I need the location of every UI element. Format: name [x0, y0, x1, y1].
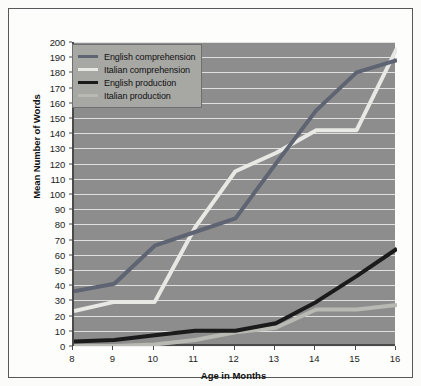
legend-swatch — [78, 68, 98, 71]
y-tick-label: 140 — [50, 128, 65, 139]
x-tick-label: 15 — [349, 353, 360, 364]
legend-item: English production — [78, 76, 195, 89]
legend-swatch — [78, 81, 98, 84]
y-tick-label: 150 — [50, 113, 65, 124]
legend-item: English comprehension — [78, 50, 195, 63]
y-tick-label: 30 — [55, 295, 65, 306]
x-axis-label: Age in Months — [72, 370, 395, 381]
x-tick-label: 12 — [228, 353, 239, 364]
y-tick-label: 160 — [50, 97, 65, 108]
y-tick-label: 130 — [50, 143, 65, 154]
y-tick-label: 100 — [50, 189, 65, 200]
y-tick-label: 190 — [50, 52, 65, 63]
y-tick-label: 70 — [55, 234, 65, 245]
x-tick-mark — [395, 346, 396, 350]
figure-frame: 0102030405060708090100110120130140150160… — [8, 8, 413, 378]
legend-label: English comprehension — [104, 52, 195, 62]
y-tick-label: 20 — [55, 310, 65, 321]
x-tick-label: 10 — [147, 353, 158, 364]
legend-item: Italian production — [78, 89, 195, 102]
x-axis: 8910111213141516 — [72, 346, 395, 368]
x-tick-label: 13 — [269, 353, 280, 364]
figure: 0102030405060708090100110120130140150160… — [0, 0, 421, 386]
y-tick-label: 60 — [55, 249, 65, 260]
legend: English comprehensionItalian comprehensi… — [72, 44, 202, 108]
x-tick-label: 16 — [390, 353, 401, 364]
legend-swatch — [78, 55, 98, 58]
x-tick-label: 11 — [188, 353, 198, 364]
legend-label: Italian production — [104, 91, 171, 101]
x-tick-mark — [153, 346, 154, 350]
legend-label: English production — [104, 78, 176, 88]
y-tick-label: 10 — [55, 325, 65, 336]
x-tick-mark — [112, 346, 113, 350]
legend-item: Italian comprehension — [78, 63, 195, 76]
x-tick-mark — [234, 346, 235, 350]
legend-swatch — [78, 94, 98, 97]
y-tick-label: 0 — [60, 341, 65, 352]
y-tick-label: 50 — [55, 265, 65, 276]
x-tick-label: 8 — [69, 353, 74, 364]
y-axis-label: Mean Number of Words — [31, 87, 42, 207]
x-tick-mark — [193, 346, 194, 350]
x-tick-mark — [314, 346, 315, 350]
y-tick-label: 180 — [50, 67, 65, 78]
x-tick-label: 9 — [110, 353, 115, 364]
y-tick-label: 200 — [50, 37, 65, 48]
x-tick-mark — [355, 346, 356, 350]
y-tick-label: 170 — [50, 82, 65, 93]
y-tick-label: 40 — [55, 280, 65, 291]
y-tick-label: 120 — [50, 158, 65, 169]
series-line — [74, 249, 397, 342]
y-tick-label: 110 — [50, 173, 65, 184]
x-tick-mark — [72, 346, 73, 350]
x-tick-label: 14 — [309, 353, 320, 364]
y-tick-label: 90 — [55, 204, 65, 215]
legend-label: Italian comprehension — [104, 65, 190, 75]
y-tick-label: 80 — [55, 219, 65, 230]
x-tick-mark — [274, 346, 275, 350]
